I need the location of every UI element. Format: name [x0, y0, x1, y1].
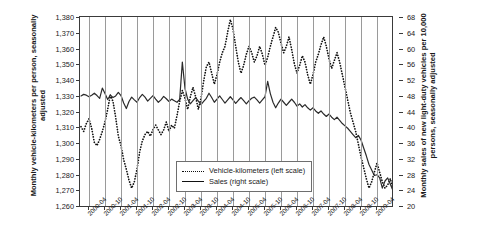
right-axis-tick-label: 32 [407, 154, 415, 163]
left-axis-tick-label: 1,310 [56, 123, 75, 132]
right-axis-tick-label: 68 [407, 13, 415, 22]
right-axis-tick-mark [399, 17, 403, 18]
legend-item-vehicle-kilometers: Vehicle-kilometers (left scale) [182, 166, 305, 177]
gridline [345, 17, 346, 206]
chart-figure: Monthly vehicle-kilometers per person, s… [0, 0, 479, 249]
gridline [361, 17, 362, 206]
right-axis-tick-label: 40 [407, 123, 415, 132]
right-axis-tick-label: 52 [407, 76, 415, 85]
right-axis-tick-mark [399, 206, 403, 207]
solid-line-swatch-icon [182, 177, 204, 186]
chart-legend: Vehicle-kilometers (left scale) Sales (r… [176, 161, 312, 192]
right-axis-tick-mark [399, 143, 403, 144]
gridline [377, 17, 378, 206]
right-axis-tick-mark [399, 127, 403, 128]
right-axis-tick-mark [399, 159, 403, 160]
left-axis-tick-label: 1,350 [56, 60, 75, 69]
right-axis-tick-label: 64 [407, 28, 415, 37]
legend-label: Vehicle-kilometers (left scale) [209, 166, 305, 177]
gridline [121, 17, 122, 206]
right-axis-tick-mark [399, 190, 403, 191]
right-axis-tick-mark [399, 64, 403, 65]
left-axis-tick-label: 1,370 [56, 28, 75, 37]
right-axis-tick-labels: 68646056524844403632282420 [399, 0, 425, 249]
gridline [153, 17, 154, 206]
left-axis-tick-label: 1,300 [56, 139, 75, 148]
left-axis-tick-labels: 1,3801,3701,3601,3501,3401,3301,3201,310… [40, 0, 74, 249]
right-axis-tick-label: 48 [407, 91, 415, 100]
right-axis-tick-label: 36 [407, 139, 415, 148]
left-axis-tick-label: 1,340 [56, 76, 75, 85]
left-axis-tick-label: 1,290 [56, 154, 75, 163]
left-axis-tick-label: 1,280 [56, 170, 75, 179]
right-axis-tick-label: 20 [407, 202, 415, 211]
right-axis-tick-mark [399, 33, 403, 34]
legend-item-sales: Sales (right scale) [182, 177, 305, 188]
gridline [89, 17, 90, 206]
gridline [137, 17, 138, 206]
gridline [169, 17, 170, 206]
right-axis-tick-mark [399, 96, 403, 97]
left-axis-tick-label: 1,270 [56, 186, 75, 195]
gridline [329, 17, 330, 206]
right-axis-tick-mark [399, 112, 403, 113]
right-axis-tick-mark [399, 175, 403, 176]
right-axis-tick-label: 44 [407, 107, 415, 116]
left-axis-tick-label: 1,320 [56, 107, 75, 116]
gridline [313, 17, 314, 206]
right-axis-tick-mark [399, 80, 403, 81]
left-axis-tick-label: 1,260 [56, 202, 75, 211]
left-axis-tick-label: 1,380 [56, 13, 75, 22]
right-axis-tick-label: 24 [407, 186, 415, 195]
right-axis-tick-label: 28 [407, 170, 415, 179]
gridline [105, 17, 106, 206]
right-axis-tick-label: 56 [407, 60, 415, 69]
left-axis-tick-label: 1,330 [56, 91, 75, 100]
legend-label: Sales (right scale) [209, 177, 268, 188]
right-axis-tick-mark [399, 49, 403, 50]
left-axis-tick-label: 1,360 [56, 44, 75, 53]
right-axis-tick-label: 60 [407, 44, 415, 53]
dotted-line-swatch-icon [182, 167, 204, 176]
